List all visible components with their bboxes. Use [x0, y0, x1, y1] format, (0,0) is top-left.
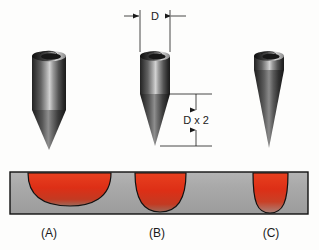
case-label-c: (C)	[263, 226, 280, 240]
electrode-b-bore-inner	[148, 54, 165, 60]
electrode-a-bore-inner	[41, 53, 61, 59]
electrode-c-bore-inner	[262, 54, 279, 60]
weld-bead-c	[253, 173, 288, 213]
electrode-b-body	[140, 56, 170, 94]
diagram-canvas: D D x 2	[0, 0, 319, 250]
dimension-label-d: D	[151, 10, 159, 22]
workpiece-plate	[10, 172, 308, 214]
electrode-a-body	[32, 56, 66, 110]
case-label-a: (A)	[41, 226, 57, 240]
case-label-b: (B)	[149, 226, 165, 240]
dimension-label-dx2: D x 2	[183, 114, 209, 126]
